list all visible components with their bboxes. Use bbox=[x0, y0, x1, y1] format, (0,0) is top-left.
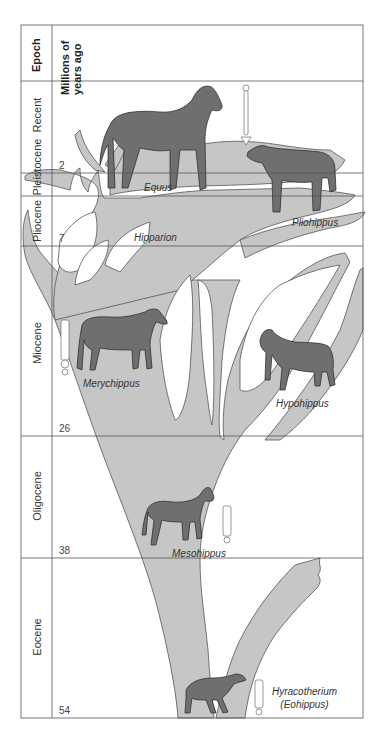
epoch-eocene: Eocene bbox=[31, 607, 43, 667]
epoch-column-header: Epoch bbox=[30, 32, 42, 72]
taxon-label-hipparion: Hipparion bbox=[134, 232, 177, 243]
mya-marker-2: 2 bbox=[59, 160, 65, 171]
merychippus-foot-bone-icon bbox=[61, 320, 69, 375]
mya-marker-38: 38 bbox=[59, 545, 70, 556]
epoch-oligocene: Oligocene bbox=[31, 461, 43, 531]
mya-column-header: Millions of years ago bbox=[59, 25, 85, 95]
mesohippus-foot-bone-icon bbox=[223, 506, 231, 543]
hyracotherium-name: Hyracotherium bbox=[272, 685, 337, 698]
mya-marker-54: 54 bbox=[59, 705, 70, 716]
taxon-label-mesohippus: Mesohippus bbox=[172, 548, 226, 559]
eohippus-name: (Eohippus) bbox=[272, 698, 337, 711]
mya-marker-26: 26 bbox=[59, 423, 70, 434]
taxon-label-hyracotherium: Hyracotherium (Eohippus) bbox=[272, 685, 337, 711]
mya-header-line2: years ago bbox=[71, 25, 83, 95]
mya-marker-7: 7 bbox=[59, 233, 65, 244]
taxon-label-hypohippus: Hypohippus bbox=[276, 398, 329, 409]
equus-foot-bone-icon bbox=[241, 85, 251, 145]
epoch-miocene: Miocene bbox=[31, 313, 43, 373]
hyracotherium-foot-bone-icon bbox=[255, 680, 263, 715]
taxon-label-pliohippus: Pliohippus bbox=[292, 217, 338, 228]
epoch-pliocene: Pliocene bbox=[31, 191, 43, 251]
taxon-label-equus: Equus bbox=[144, 182, 172, 193]
taxon-label-merychippus: Merychippus bbox=[83, 378, 140, 389]
mya-header-line1: Millions of bbox=[59, 25, 71, 95]
horse-evolution-diagram bbox=[0, 0, 379, 737]
